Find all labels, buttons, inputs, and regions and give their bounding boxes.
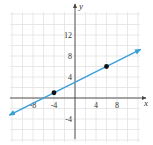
tick-labels: -8-4481284-4 (30, 31, 119, 124)
x-tick-label: -4 (51, 101, 58, 110)
x-tick-label: 8 (115, 101, 119, 110)
y-tick-label: 8 (68, 52, 72, 61)
x-tick-label: 4 (94, 101, 98, 110)
data-point (104, 64, 109, 69)
y-axis-label: y (78, 1, 83, 11)
y-tick-label: 12 (64, 31, 72, 40)
y-tick-label: 4 (68, 73, 72, 82)
x-axis-label: x (143, 98, 148, 108)
data-point (52, 90, 57, 95)
y-tick-label: -4 (65, 115, 72, 124)
line-chart: -8-4481284-4 x y (0, 0, 153, 145)
